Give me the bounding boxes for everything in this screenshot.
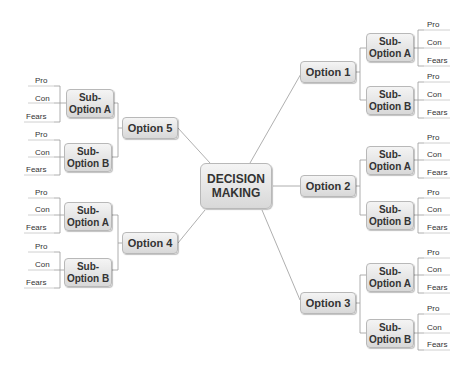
option-1-sub-a-node[interactable]: Sub- Option A (366, 33, 414, 62)
sub-label-line1: Sub- (79, 92, 101, 104)
option-4-sub-b-con[interactable]: Con (35, 260, 50, 269)
option-4-label: Option 4 (128, 237, 173, 249)
option-3-sub-b-fears[interactable]: Fears (427, 340, 447, 349)
sub-label-line1: Sub- (379, 322, 401, 334)
option-4-sub-a-pro[interactable]: Pro (35, 188, 47, 197)
root-label-line2: MAKING (212, 186, 261, 200)
sub-label-line1: Sub- (379, 266, 401, 278)
option-3-sub-a-pro[interactable]: Pro (427, 248, 439, 257)
option-1-sub-b-fears[interactable]: Fears (427, 108, 447, 117)
option-4-sub-b-pro[interactable]: Pro (35, 242, 47, 251)
sub-label-line2: Option B (369, 216, 411, 228)
sub-label-line2: Option A (369, 278, 411, 290)
option-2-node[interactable]: Option 2 (300, 175, 356, 197)
option-1-sub-b-pro[interactable]: Pro (427, 72, 439, 81)
sub-label-line1: Sub- (379, 204, 401, 216)
option-5-label: Option 5 (128, 122, 173, 134)
option-2-sub-b-node[interactable]: Sub- Option B (366, 201, 414, 230)
option-5-sub-b-fears[interactable]: Fears (26, 165, 46, 174)
option-2-sub-a-fears[interactable]: Fears (427, 168, 447, 177)
option-3-sub-b-pro[interactable]: Pro (427, 304, 439, 313)
option-2-sub-b-fears[interactable]: Fears (427, 223, 447, 232)
root-label-line1: DECISION (207, 172, 265, 186)
option-3-sub-a-con[interactable]: Con (427, 265, 442, 274)
sub-label-line2: Option A (369, 48, 411, 60)
option-1-sub-a-pro[interactable]: Pro (427, 20, 439, 29)
option-1-sub-a-fears[interactable]: Fears (427, 56, 447, 65)
sub-label-line2: Option A (67, 217, 109, 229)
option-4-node[interactable]: Option 4 (122, 232, 178, 254)
option-2-sub-a-node[interactable]: Sub- Option A (366, 146, 414, 175)
option-4-sub-b-node[interactable]: Sub- Option B (64, 258, 112, 287)
sub-label-line1: Sub- (379, 36, 401, 48)
option-3-node[interactable]: Option 3 (300, 292, 356, 314)
option-4-sub-b-fears[interactable]: Fears (26, 278, 46, 287)
sub-label-line1: Sub- (379, 149, 401, 161)
option-4-sub-a-node[interactable]: Sub- Option A (64, 202, 112, 231)
option-2-sub-a-con[interactable]: Con (427, 150, 442, 159)
option-1-sub-b-con[interactable]: Con (427, 90, 442, 99)
option-3-sub-a-node[interactable]: Sub- Option A (366, 263, 414, 292)
option-5-node[interactable]: Option 5 (122, 117, 178, 139)
option-1-sub-b-node[interactable]: Sub- Option B (366, 86, 414, 115)
option-2-sub-b-con[interactable]: Con (427, 205, 442, 214)
option-3-sub-b-node[interactable]: Sub- Option B (366, 319, 414, 348)
option-1-node[interactable]: Option 1 (300, 61, 356, 83)
option-2-sub-a-pro[interactable]: Pro (427, 133, 439, 142)
option-5-sub-b-node[interactable]: Sub- Option B (64, 143, 112, 172)
option-5-sub-b-pro[interactable]: Pro (35, 130, 47, 139)
sub-label-line1: Sub- (77, 205, 99, 217)
option-5-sub-a-fears[interactable]: Fears (26, 112, 46, 121)
option-3-label: Option 3 (306, 297, 351, 309)
sub-label-line2: Option B (67, 158, 109, 170)
option-5-sub-a-con[interactable]: Con (35, 94, 50, 103)
option-5-sub-b-con[interactable]: Con (35, 148, 50, 157)
root-node-decision-making[interactable]: DECISION MAKING (200, 163, 272, 209)
sub-label-line1: Sub- (77, 261, 99, 273)
sub-label-line2: Option B (67, 273, 109, 285)
option-5-sub-a-pro[interactable]: Pro (35, 76, 47, 85)
sub-label-line2: Option B (369, 101, 411, 113)
sub-label-line1: Sub- (77, 146, 99, 158)
option-4-sub-a-fears[interactable]: Fears (26, 223, 46, 232)
sub-label-line2: Option B (369, 334, 411, 346)
option-3-sub-a-fears[interactable]: Fears (427, 283, 447, 292)
sub-label-line1: Sub- (379, 89, 401, 101)
option-5-sub-a-node[interactable]: Sub- Option A (66, 89, 114, 118)
option-1-label: Option 1 (306, 66, 351, 78)
sub-label-line2: Option A (69, 104, 111, 116)
sub-label-line2: Option A (369, 161, 411, 173)
option-3-sub-b-con[interactable]: Con (427, 323, 442, 332)
option-4-sub-a-con[interactable]: Con (35, 205, 50, 214)
option-1-sub-a-con[interactable]: Con (427, 38, 442, 47)
option-2-sub-b-pro[interactable]: Pro (427, 188, 439, 197)
option-2-label: Option 2 (306, 180, 351, 192)
